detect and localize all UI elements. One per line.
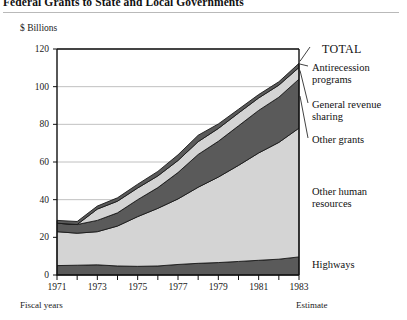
- series-label-total: TOTAL: [322, 43, 362, 55]
- y-tick-label: 80: [23, 119, 49, 129]
- series-label-highways: Highways: [312, 259, 355, 271]
- y-tick-label: 120: [23, 44, 49, 54]
- x-tick-label: 1979: [198, 282, 238, 292]
- leader-line: [300, 96, 308, 138]
- y-tick-label: 20: [23, 232, 49, 242]
- fiscal-years-note: Fiscal years: [20, 300, 63, 310]
- leader-line: [300, 70, 308, 103]
- x-tick-label: 1977: [158, 282, 198, 292]
- y-tick-label: 0: [23, 270, 49, 280]
- y-tick-label: 100: [23, 82, 49, 92]
- x-tick-label: 1983: [279, 282, 319, 292]
- leader-line: [300, 47, 310, 61]
- x-tick-label: 1971: [37, 282, 77, 292]
- leader-line: [300, 64, 308, 66]
- x-tick-label: 1981: [239, 282, 279, 292]
- x-tick-label: 1975: [118, 282, 158, 292]
- estimate-note: Estimate: [296, 300, 328, 310]
- figure-root: Federal Grants to State and Local Govern…: [0, 0, 407, 320]
- series-label-antirecession: Antirecession programs: [312, 62, 370, 86]
- series-label-other-grants: Other grants: [312, 134, 364, 146]
- y-tick-label: 60: [23, 157, 49, 167]
- series-label-other-human-resources: Other human resources: [312, 186, 367, 210]
- series-label-general-revenue-sharing: General revenue sharing: [312, 99, 381, 123]
- x-tick-label: 1973: [77, 282, 117, 292]
- y-tick-label: 40: [23, 195, 49, 205]
